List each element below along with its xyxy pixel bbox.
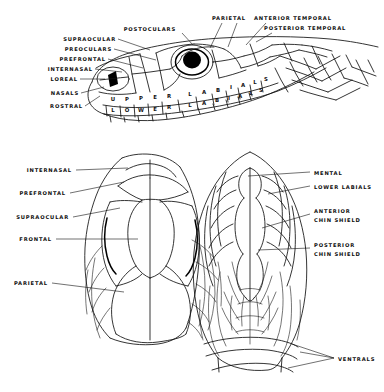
label-ventral-anterior-chin-shield-line2: CHIN SHIELD xyxy=(314,217,361,223)
label-ventral-posterior-chin-shield-line2: CHIN SHIELD xyxy=(314,251,361,257)
label-nasals: NASALS xyxy=(51,90,79,96)
lower-labial-letter: O xyxy=(125,107,130,113)
upper-labial-letter: P xyxy=(139,95,143,101)
label-preoculars: PREOCULARS xyxy=(65,46,112,52)
label-dorsal-parietal: PARIETAL xyxy=(14,280,48,286)
label-prefrontal: PREFRONTAL xyxy=(59,56,106,62)
label-internasal: INTERNASAL xyxy=(48,66,93,72)
lateral-eye-pupil xyxy=(183,52,201,69)
upper-labial-letter: B xyxy=(216,87,220,93)
label-dorsal-frontal: FRONTAL xyxy=(19,236,52,242)
label-ventral-posterior-chin-shield-line1: POSTERIOR xyxy=(314,242,355,248)
label-dorsal-supraocular: SUPRAOCULAR xyxy=(16,214,69,220)
upper-labial-letter: I xyxy=(230,84,232,90)
upper-labial-letter: U xyxy=(111,96,115,102)
snake-scalation-figure: SUPRAOCULAR PREOCULARS PREFRONTAL INTERN… xyxy=(0,0,384,392)
upper-labial-letter: E xyxy=(153,94,157,100)
lower-labial-letter: E xyxy=(153,106,157,112)
label-anterior-temporal: ANTERIOR TEMPORAL xyxy=(254,15,332,21)
label-ventral-anterior-chin-shield-line1: ANTERIOR xyxy=(314,208,351,214)
label-parietal: PARIETAL xyxy=(212,15,246,21)
label-posterior-temporal: POSTERIOR TEMPORAL xyxy=(264,25,346,31)
lower-labial-letter: S xyxy=(259,87,263,93)
lower-labial-letter: I xyxy=(228,95,230,101)
lower-labial-letter: B xyxy=(215,97,219,103)
lower-labial-letter: L xyxy=(249,90,253,96)
label-ventral-ventrals: VENTRALS xyxy=(338,356,375,362)
upper-labial-letter: L xyxy=(253,79,257,85)
label-ventral-lower-labials: LOWER LABIALS xyxy=(314,184,372,190)
lower-labial-letter: W xyxy=(138,107,144,113)
label-dorsal-internasal: INTERNASAL xyxy=(27,167,72,173)
label-supraocular: SUPRAOCULAR xyxy=(63,36,116,42)
label-postoculars: POSTOCULARS xyxy=(124,26,176,32)
lower-labial-letter: L xyxy=(111,107,115,113)
label-rostral: ROSTRAL xyxy=(50,103,83,109)
label-ventral-mental: MENTAL xyxy=(314,170,343,176)
upper-labial-letter: P xyxy=(125,96,129,102)
upper-labial-letter: L xyxy=(188,91,192,97)
label-loreal: LOREAL xyxy=(51,76,79,82)
upper-labial-letter: S xyxy=(264,76,268,82)
label-dorsal-prefrontal: PREFRONTAL xyxy=(19,190,66,196)
lower-labial-letter: L xyxy=(188,102,192,108)
